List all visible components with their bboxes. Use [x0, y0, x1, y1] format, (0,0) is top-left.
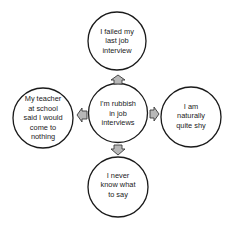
bottom-node-label: I never know what to say [101, 171, 136, 199]
center-node: I'm rubbish in job interviews [88, 84, 148, 143]
arrow-right-icon [150, 107, 159, 121]
arrow-left-icon [77, 108, 87, 122]
left-node-label: My teacher at school said I would come t… [23, 94, 62, 141]
top-node-label: I failed my last job interview [100, 27, 134, 55]
top-node: I failed my last job interview [88, 12, 146, 70]
right-node-label: I am naturally quite shy [176, 102, 206, 130]
left-node: My teacher at school said I would come t… [13, 88, 73, 148]
bottom-node: I never know what to say [88, 157, 148, 213]
arrow-up-icon [111, 75, 125, 84]
center-node-label: I'm rubbish in job interviews [100, 99, 136, 127]
arrow-down-icon [111, 145, 125, 155]
right-node: I am naturally quite shy [161, 86, 221, 146]
